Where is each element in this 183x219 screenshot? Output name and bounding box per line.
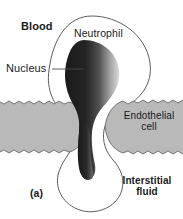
label-neutrophil: Neutrophil [74, 28, 123, 40]
label-interstitial-fluid: Interstitial fluid [113, 175, 181, 197]
label-blood: Blood [21, 20, 53, 32]
label-nucleus: Nucleus [6, 62, 46, 74]
diapedesis-figure: Blood Nucleus Neutrophil Endothelial cel… [0, 0, 183, 219]
label-endothelial-cell: Endothelial cell [117, 110, 181, 132]
panel-label: (a) [30, 188, 43, 200]
